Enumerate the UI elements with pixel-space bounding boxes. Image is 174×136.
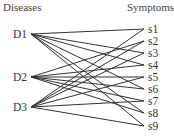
edge-d3-s5 (31, 77, 144, 107)
disease-node-d2: D2 (13, 71, 27, 83)
edge-d1-s3 (31, 34, 144, 53)
symptom-node-s2: s2 (148, 35, 158, 47)
symptom-node-s9: s9 (148, 120, 158, 132)
edge-d3-s9 (31, 107, 144, 126)
symptom-node-s7: s7 (148, 95, 158, 107)
edge-d2-s6 (31, 77, 144, 89)
edge-d2-s4 (31, 65, 144, 77)
symptom-node-s5: s5 (148, 71, 158, 83)
symptom-node-s8: s8 (148, 107, 158, 119)
disease-node-d1: D1 (13, 28, 27, 40)
symptom-node-s6: s6 (148, 83, 158, 95)
disease-node-d3: D3 (13, 101, 27, 113)
symptom-node-s1: s1 (148, 23, 158, 35)
edge-d1-s1 (31, 29, 144, 34)
edge-d3-s7 (31, 101, 144, 107)
edge-d1-s4 (31, 34, 144, 65)
symptom-node-s4: s4 (148, 59, 158, 71)
symptom-node-s3: s3 (148, 47, 158, 59)
